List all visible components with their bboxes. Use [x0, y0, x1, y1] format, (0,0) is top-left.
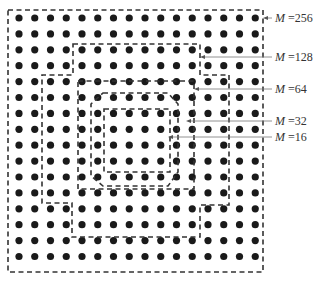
antenna-element-dot — [252, 14, 259, 21]
antenna-element-dot — [126, 237, 133, 244]
antenna-element-dot — [157, 158, 164, 165]
antenna-element-dot — [47, 110, 54, 117]
region-m128-boundary — [42, 44, 229, 237]
antenna-element-dot — [204, 46, 211, 53]
antenna-element-dot — [94, 237, 101, 244]
antenna-element-dot — [204, 173, 211, 180]
antenna-element-dot — [94, 189, 101, 196]
antenna-element-dot — [173, 142, 180, 149]
antenna-element-dot — [141, 94, 148, 101]
antenna-element-dot — [31, 30, 38, 37]
antenna-element-dot — [220, 158, 227, 165]
antenna-element-dot — [220, 30, 227, 37]
antenna-element-dot — [47, 158, 54, 165]
antenna-element-dot — [157, 189, 164, 196]
mimo-subarray-diagram: M =256M =128M =64M =32M =16 — [0, 0, 315, 288]
antenna-element-dot — [141, 158, 148, 165]
label-m256: M =256 — [274, 11, 313, 25]
antenna-element-dot — [31, 221, 38, 228]
antenna-element-dot — [141, 30, 148, 37]
antenna-element-dot — [220, 221, 227, 228]
antenna-element-dot — [173, 205, 180, 212]
antenna-element-dot — [252, 110, 259, 117]
antenna-element-dot — [47, 221, 54, 228]
antenna-element-dot — [31, 14, 38, 21]
antenna-element-dot — [252, 189, 259, 196]
antenna-element-dot — [78, 158, 85, 165]
antenna-element-dot — [15, 126, 22, 133]
antenna-element-dot — [78, 142, 85, 149]
antenna-element-dot — [63, 110, 70, 117]
antenna-element-dot — [173, 94, 180, 101]
antenna-element-dot — [236, 205, 243, 212]
antenna-element-dot — [141, 221, 148, 228]
antenna-element-dot — [189, 30, 196, 37]
antenna-element-dot — [110, 126, 117, 133]
antenna-element-dot — [141, 46, 148, 53]
antenna-element-dot — [63, 205, 70, 212]
antenna-element-dot — [126, 205, 133, 212]
antenna-element-dot — [63, 173, 70, 180]
antenna-element-dot — [15, 158, 22, 165]
antenna-element-dot — [236, 46, 243, 53]
antenna-element-dot — [220, 78, 227, 85]
antenna-element-dot — [31, 78, 38, 85]
antenna-element-dot — [204, 158, 211, 165]
antenna-element-dot — [252, 253, 259, 260]
antenna-element-dot — [15, 46, 22, 53]
antenna-element-dot — [63, 62, 70, 69]
antenna-element-dot — [47, 142, 54, 149]
antenna-element-dot — [94, 158, 101, 165]
antenna-element-dot — [236, 253, 243, 260]
antenna-element-dot — [110, 253, 117, 260]
antenna-element-dot — [204, 62, 211, 69]
antenna-element-dot — [63, 189, 70, 196]
antenna-element-dot — [236, 173, 243, 180]
antenna-element-dot — [15, 237, 22, 244]
antenna-element-dot — [204, 253, 211, 260]
antenna-element-dot — [78, 126, 85, 133]
antenna-element-dot — [78, 30, 85, 37]
antenna-element-dot — [236, 30, 243, 37]
antenna-element-dot — [252, 62, 259, 69]
antenna-element-dot — [220, 189, 227, 196]
antenna-element-dot — [31, 237, 38, 244]
antenna-element-dot — [110, 46, 117, 53]
antenna-element-dot — [47, 173, 54, 180]
antenna-element-dot — [126, 126, 133, 133]
antenna-element-dot — [141, 126, 148, 133]
antenna-element-dot — [189, 46, 196, 53]
antenna-element-dot — [157, 94, 164, 101]
antenna-element-dot — [47, 253, 54, 260]
antenna-element-dot — [78, 237, 85, 244]
antenna-element-dot — [141, 237, 148, 244]
antenna-element-dot — [141, 110, 148, 117]
antenna-element-dot — [94, 205, 101, 212]
antenna-element-dot — [236, 94, 243, 101]
antenna-element-dot — [31, 173, 38, 180]
antenna-element-dot — [252, 126, 259, 133]
antenna-element-dot — [236, 142, 243, 149]
antenna-element-dot — [220, 142, 227, 149]
antenna-element-dot — [31, 189, 38, 196]
antenna-element-dot — [63, 94, 70, 101]
antenna-element-dot — [31, 142, 38, 149]
antenna-element-dot — [173, 46, 180, 53]
antenna-element-dot — [110, 237, 117, 244]
antenna-element-dot — [47, 126, 54, 133]
antenna-element-dot — [110, 205, 117, 212]
antenna-element-dot — [15, 62, 22, 69]
antenna-element-dot — [110, 110, 117, 117]
antenna-element-dot — [126, 142, 133, 149]
antenna-element-dot — [236, 237, 243, 244]
arrowhead-icon — [186, 119, 191, 123]
antenna-element-dot — [94, 110, 101, 117]
antenna-element-dot — [31, 94, 38, 101]
antenna-element-dot — [126, 30, 133, 37]
antenna-element-dot — [78, 173, 85, 180]
antenna-element-dot — [204, 110, 211, 117]
antenna-element-dot — [204, 221, 211, 228]
antenna-element-dot — [173, 110, 180, 117]
antenna-element-dot — [220, 94, 227, 101]
antenna-element-dot — [110, 189, 117, 196]
